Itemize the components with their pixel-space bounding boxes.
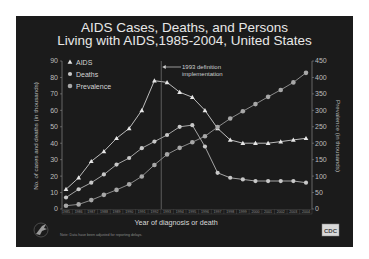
series-line bbox=[66, 125, 306, 197]
legend-label-deaths: Deaths bbox=[76, 71, 99, 78]
square-marker-icon bbox=[190, 140, 195, 145]
diamond-marker-icon bbox=[165, 133, 169, 137]
diamond-marker-icon bbox=[152, 139, 156, 143]
y-tick-label-right: 200 bbox=[315, 140, 327, 147]
x-tick-label: 1997 bbox=[214, 210, 222, 214]
axes: 0102030405060708090050100150200250300350… bbox=[50, 57, 327, 214]
x-tick-label: 1995 bbox=[188, 210, 196, 214]
square-marker-icon bbox=[152, 163, 157, 168]
y-axis-label-left: No. of cases and deaths (in thousands) bbox=[32, 82, 39, 190]
cdc-logo: CDC bbox=[322, 224, 339, 236]
series-deaths bbox=[64, 123, 308, 200]
square-marker-icon bbox=[203, 134, 208, 139]
x-tick-label: 1985 bbox=[62, 210, 70, 214]
y-tick-label-right: 100 bbox=[315, 173, 327, 180]
series-prevalence bbox=[64, 71, 309, 208]
legend-label-aids: AIDS bbox=[76, 59, 93, 66]
y-tick-label-left: 30 bbox=[50, 156, 58, 163]
y-axis-label-right: Prevalence (in thousands) bbox=[335, 100, 342, 172]
diamond-marker-icon bbox=[68, 72, 72, 76]
y-tick-label-left: 90 bbox=[50, 57, 58, 64]
chart-area: 0102030405060708090050100150200250300350… bbox=[0, 0, 369, 259]
square-marker-icon bbox=[278, 88, 283, 93]
x-tick-label: 1998 bbox=[226, 210, 234, 214]
y-tick-label-right: 400 bbox=[315, 74, 327, 81]
square-marker-icon bbox=[139, 174, 144, 179]
annotation-line-2: implementation bbox=[182, 71, 223, 77]
triangle-marker-icon bbox=[152, 78, 157, 82]
legend-label-prevalence: Prevalence bbox=[76, 83, 111, 90]
x-tick-label: 2004 bbox=[302, 210, 310, 214]
square-marker-icon bbox=[304, 71, 309, 76]
square-marker-icon bbox=[89, 198, 94, 203]
y-tick-label-right: 350 bbox=[315, 90, 327, 97]
triangle-marker-icon bbox=[139, 108, 144, 112]
x-tick-label: 2003 bbox=[289, 210, 297, 214]
diamond-marker-icon bbox=[127, 156, 131, 160]
legend: AIDSDeathsPrevalence bbox=[68, 59, 112, 90]
annotation-line-1: 1993 definition bbox=[182, 64, 221, 70]
y-tick-label-left: 20 bbox=[50, 173, 58, 180]
triangle-marker-icon bbox=[68, 60, 73, 64]
square-marker-icon bbox=[241, 109, 246, 114]
y-tick-label-left: 50 bbox=[50, 123, 58, 130]
diamond-marker-icon bbox=[102, 172, 106, 176]
diamond-marker-icon bbox=[178, 125, 182, 129]
plot-lines bbox=[64, 71, 309, 208]
square-marker-icon bbox=[228, 116, 233, 121]
diamond-marker-icon bbox=[114, 163, 118, 167]
square-marker-icon bbox=[266, 95, 271, 100]
square-marker-icon bbox=[76, 202, 81, 207]
diamond-marker-icon bbox=[77, 187, 81, 191]
x-tick-label: 1987 bbox=[87, 210, 95, 214]
y-tick-label-left: 60 bbox=[50, 107, 58, 114]
y-tick-label-right: 50 bbox=[315, 189, 323, 196]
square-marker-icon bbox=[291, 80, 296, 85]
y-tick-label-right: 300 bbox=[315, 107, 327, 114]
x-tick-label: 1989 bbox=[113, 210, 121, 214]
diamond-marker-icon bbox=[241, 177, 245, 181]
diamond-marker-icon bbox=[228, 176, 232, 180]
y-tick-label-left: 40 bbox=[50, 140, 58, 147]
diamond-marker-icon bbox=[279, 179, 283, 183]
diamond-marker-icon bbox=[89, 181, 93, 185]
x-tick-label: 1993 bbox=[163, 210, 171, 214]
y-tick-label-left: 10 bbox=[50, 189, 58, 196]
x-tick-label: 1990 bbox=[125, 210, 133, 214]
x-tick-label: 1999 bbox=[239, 210, 247, 214]
triangle-marker-icon bbox=[304, 136, 309, 140]
x-tick-label: 2002 bbox=[277, 210, 285, 214]
y-tick-label-right: 450 bbox=[315, 57, 327, 64]
y-tick-label-right: 150 bbox=[315, 156, 327, 163]
x-tick-label: 1992 bbox=[150, 210, 158, 214]
x-tick-label: 1988 bbox=[100, 210, 108, 214]
x-tick-label: 1986 bbox=[75, 210, 83, 214]
square-marker-icon bbox=[253, 102, 258, 107]
square-marker-icon bbox=[102, 193, 107, 198]
y-tick-label-left: 80 bbox=[50, 74, 58, 81]
diamond-marker-icon bbox=[291, 179, 295, 183]
series-line bbox=[66, 73, 306, 206]
square-marker-icon bbox=[165, 152, 170, 157]
arrow-head-icon bbox=[162, 65, 166, 69]
square-marker-icon bbox=[64, 203, 69, 208]
y-tick-label-right: 250 bbox=[315, 123, 327, 130]
square-marker-icon bbox=[68, 84, 73, 89]
diamond-marker-icon bbox=[304, 181, 308, 185]
diamond-marker-icon bbox=[190, 123, 194, 127]
diamond-marker-icon bbox=[215, 171, 219, 175]
y-tick-label-right: 0 bbox=[315, 205, 319, 212]
square-marker-icon bbox=[177, 146, 182, 151]
x-tick-label: 1994 bbox=[176, 210, 184, 214]
footnote: Note: Data have been adjusted for report… bbox=[60, 233, 142, 237]
x-axis-label: Year of diagnosis or death bbox=[134, 218, 217, 227]
y-tick-label-left: 0 bbox=[54, 205, 58, 212]
diamond-marker-icon bbox=[203, 144, 207, 148]
diamond-marker-icon bbox=[64, 195, 68, 199]
svg-text:CDC: CDC bbox=[324, 228, 338, 234]
diamond-marker-icon bbox=[266, 179, 270, 183]
diamond-marker-icon bbox=[140, 146, 144, 150]
x-tick-label: 1991 bbox=[138, 210, 146, 214]
square-marker-icon bbox=[114, 188, 119, 193]
square-marker-icon bbox=[215, 125, 220, 130]
